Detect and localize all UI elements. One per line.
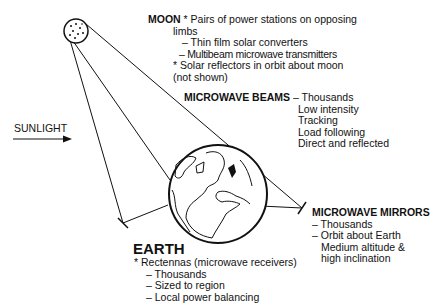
mirrors-line: high inclination: [321, 253, 390, 265]
moon-icon: [64, 19, 88, 43]
sunlight-label: SUNLIGHT: [14, 123, 67, 135]
sunlight-arrow-icon: [13, 136, 72, 143]
mirror-left-icon: [118, 218, 128, 228]
moon-label-block: MOON * Pairs of power stations on opposi…: [148, 14, 357, 26]
beam-to-mirror-left: [70, 40, 123, 223]
beams-line: Direct and reflected: [298, 138, 389, 150]
moon-line: * Solar reflectors in orbit about moon: [173, 60, 343, 72]
mirrors-line: – Orbit about Earth: [312, 230, 401, 242]
moon-line: * Pairs of power stations on opposing: [184, 13, 357, 25]
earth-line: – Local power balancing: [137, 292, 259, 304]
beams-line: Tracking: [298, 115, 338, 127]
earth-icon: [169, 145, 267, 243]
earth-title: EARTH: [133, 241, 185, 257]
beams-line: – Thousands: [293, 91, 354, 103]
beam-to-earth-left: [73, 41, 170, 180]
moon-line: (not shown): [173, 72, 228, 84]
mirrors-title: MICROWAVE MIRRORS: [312, 207, 430, 219]
earth-line: * Rectennas (microwave receivers): [134, 257, 297, 269]
reflected-beam-left: [123, 205, 168, 223]
beams-title: MICROWAVE BEAMS: [184, 91, 290, 103]
earth-line: – Sized to region: [137, 280, 225, 292]
moon-title: MOON: [148, 13, 181, 25]
beams-label-block: MICROWAVE BEAMS – Thousands: [184, 92, 353, 104]
moon-line: – Thin film solar converters: [173, 37, 308, 49]
